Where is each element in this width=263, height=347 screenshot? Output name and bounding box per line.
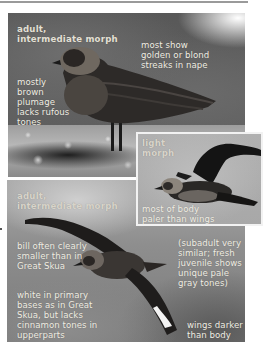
annotation-white-primary-bases: white in primary bases as in Great Skua,… <box>17 290 97 340</box>
page-edge-mark <box>0 228 2 230</box>
heading-adult-intermediate-morph-bottom: adult, intermediate morph <box>17 191 118 211</box>
heading-light-morph: light morph <box>142 138 174 158</box>
annotation-brown-plumage: mostly brown plumage lacks rufous tones <box>17 77 69 127</box>
annotation-subadult-juvenile: (subadult very similar; fresh juvenile s… <box>178 238 242 288</box>
annotation-bill-smaller: bill often clearly smaller than in Great… <box>17 241 87 271</box>
heading-adult-intermediate-morph-top: adult, intermediate morph <box>17 24 118 44</box>
top-rule <box>0 1 248 3</box>
annotation-wings-darker: wings darker than body <box>187 320 243 340</box>
annotation-nape-streaks: most show golden or blond streaks in nap… <box>141 40 209 70</box>
annotation-body-paler-than-wings: most of body paler than wings <box>142 204 215 224</box>
